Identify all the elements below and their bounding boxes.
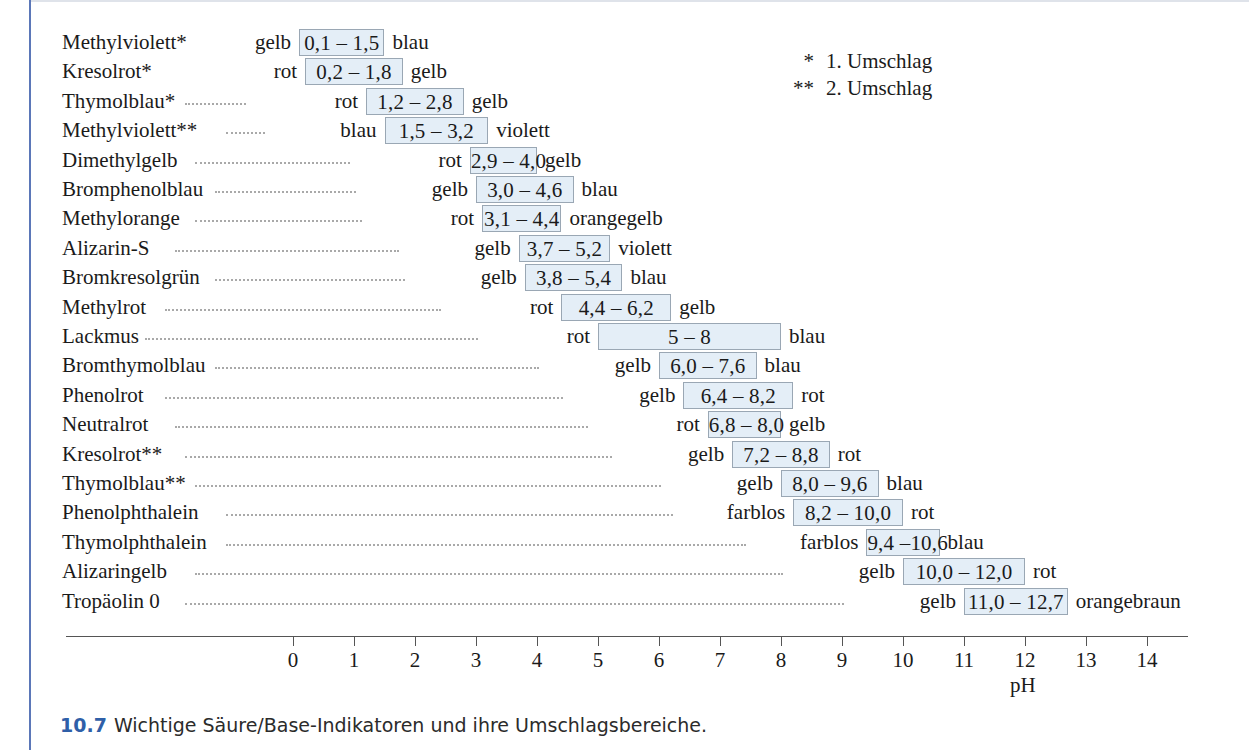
leader-dots [195, 220, 362, 222]
axis-tick-label: 14 [1127, 647, 1167, 673]
axis-tick-label: 9 [822, 647, 862, 673]
indicator-name: Methylviolett** [62, 116, 197, 145]
indicator-row: Methylviolett**1,5 – 3,2blauviolett [0, 116, 1249, 145]
indicator-name: Lackmus [62, 322, 139, 351]
indicator-row: Alizarin-S3,7 – 5,2gelbviolett [0, 234, 1249, 263]
leader-dots [175, 426, 588, 428]
base-color-label: blau [887, 469, 923, 498]
base-color-label: gelb [789, 410, 825, 439]
indicator-name: Dimethylgelb [62, 146, 177, 175]
indicator-row: Phenolrot6,4 – 8,2gelbrot [0, 381, 1249, 410]
axis-tick [354, 637, 355, 646]
leader-dots [226, 132, 265, 134]
ph-range-box: 8,2 – 10,0 [793, 499, 903, 526]
acid-color-label: farblos [681, 498, 785, 527]
base-color-label: blau [765, 351, 801, 380]
axis-tick-label: 0 [273, 647, 313, 673]
leader-dots [175, 250, 399, 252]
axis-tick [842, 637, 843, 646]
acid-color-label: gelb [407, 234, 511, 263]
indicator-row: Thymolphthalein9,4 –10,6farblosblau [0, 528, 1249, 557]
leader-dots [195, 485, 661, 487]
leader-dots [185, 603, 844, 605]
base-color-label: blau [948, 528, 984, 557]
indicator-row: Kresolrot*0,2 – 1,8rotgelb [0, 57, 1249, 86]
axis-line [66, 636, 1188, 637]
axis-tick [293, 637, 294, 646]
acid-color-label: gelb [669, 469, 773, 498]
base-color-label: gelb [545, 146, 581, 175]
axis-tick [659, 637, 660, 646]
acid-color-label: gelb [413, 263, 517, 292]
indicator-name: Methylviolett* [62, 28, 187, 57]
indicator-name: Thymolphthalein [62, 528, 207, 557]
caption-number: 10.7 [60, 714, 107, 736]
indicator-row: Phenolphthalein8,2 – 10,0farblosrot [0, 498, 1249, 527]
base-color-label: orangebraun [1076, 587, 1181, 616]
acid-color-label: rot [486, 322, 590, 351]
base-color-label: rot [838, 440, 861, 469]
acid-color-label: rot [193, 57, 297, 86]
base-color-label: rot [801, 381, 824, 410]
acid-color-label: gelb [571, 381, 675, 410]
leader-dots [215, 191, 356, 193]
axis-tick-label: 8 [761, 647, 801, 673]
indicator-name: Phenolphthalein [62, 498, 198, 527]
ph-range-box: 5 – 8 [598, 323, 781, 350]
legend-marker: ** [780, 75, 814, 102]
ph-range-box: 3,0 – 4,6 [476, 176, 574, 203]
leader-dots [195, 573, 783, 575]
legend-item: **2. Umschlag [780, 75, 932, 102]
indicator-row: Methylviolett*0,1 – 1,5gelbblau [0, 28, 1249, 57]
base-color-label: blau [393, 28, 429, 57]
acid-color-label: rot [370, 204, 474, 233]
legend-item: *1. Umschlag [780, 48, 932, 75]
ph-range-box: 1,5 – 3,2 [385, 117, 489, 144]
indicator-row: Bromkresolgrün3,8 – 5,4gelbblau [0, 263, 1249, 292]
leader-dots [195, 162, 350, 164]
ph-range-box: 3,1 – 4,4 [482, 205, 561, 232]
acid-color-label: gelb [364, 175, 468, 204]
leader-dots [165, 397, 564, 399]
ph-range-box: 6,8 – 8,0 [708, 411, 781, 438]
axis-tick [1086, 637, 1087, 646]
base-color-label: orangegelb [569, 204, 662, 233]
axis-tick [903, 637, 904, 646]
ph-range-box: 8,0 – 9,6 [781, 470, 879, 497]
indicator-name: Thymolblau* [62, 87, 175, 116]
indicator-row: Kresolrot**7,2 – 8,8gelbrot [0, 440, 1249, 469]
chart-legend: *1. Umschlag**2. Umschlag [780, 48, 932, 102]
ph-range-box: 3,8 – 5,4 [525, 264, 623, 291]
indicator-name: Kresolrot** [62, 440, 162, 469]
indicator-name: Neutralrot [62, 410, 148, 439]
base-color-label: gelb [679, 293, 715, 322]
caption-text: Wichtige Säure/Base-Indikatoren und ihre… [114, 714, 707, 736]
leader-dots [165, 309, 442, 311]
ph-range-box: 0,2 – 1,8 [305, 58, 403, 85]
axis-tick-label: 10 [883, 647, 923, 673]
leader-dots [226, 544, 747, 546]
axis-tick-label: 2 [395, 647, 435, 673]
axis-tick-label: 12 [1005, 647, 1045, 673]
acid-color-label: rot [254, 87, 358, 116]
acid-color-label: gelb [187, 28, 291, 57]
legend-label: 1. Umschlag [826, 48, 932, 75]
legend-label: 2. Umschlag [826, 75, 932, 102]
axis-tick [476, 637, 477, 646]
base-color-label: rot [911, 498, 934, 527]
axis-tick [598, 637, 599, 646]
axis-tick-label: 6 [639, 647, 679, 673]
acid-color-label: gelb [620, 440, 724, 469]
acid-color-label: gelb [791, 557, 895, 586]
base-color-label: gelb [472, 87, 508, 116]
leader-dots [145, 338, 478, 340]
base-color-label: violett [496, 116, 550, 145]
indicator-row: Thymolblau*1,2 – 2,8rotgelb [0, 87, 1249, 116]
indicator-row: Tropäolin 011,0 – 12,7gelborangebraun [0, 587, 1249, 616]
ph-range-box: 11,0 – 12,7 [964, 588, 1068, 615]
acid-color-label: rot [596, 410, 700, 439]
ph-range-box: 7,2 – 8,8 [732, 441, 830, 468]
indicator-row: Alizaringelb10,0 – 12,0gelbrot [0, 557, 1249, 586]
axis-tick [1147, 637, 1148, 646]
axis-tick-label: 13 [1066, 647, 1106, 673]
